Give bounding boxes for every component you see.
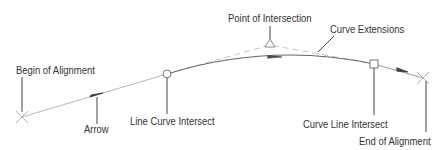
direction-arrow-icon [268, 56, 282, 58]
label-begin-of-alignment: Begin of Alignment [16, 64, 95, 76]
pi-triangle-icon [265, 39, 275, 47]
label-arrow: Arrow [84, 123, 109, 135]
direction-arrow-icon [90, 93, 103, 97]
line-curve-circle-icon [163, 70, 171, 78]
label-point-of-intersection: Point of Intersection [228, 12, 312, 24]
curve-extension-dashed [167, 45, 374, 74]
curve-line-square-icon [370, 60, 378, 68]
end-x-icon [417, 72, 429, 84]
direction-arrow-icon [397, 68, 408, 72]
label-line-curve-intersect: Line Curve Intersect [130, 115, 215, 127]
leader-lines [22, 26, 426, 132]
label-end-of-alignment: End of Alignment [359, 135, 431, 147]
label-curve-line-intersect: Curve Line Intersect [303, 118, 388, 130]
label-curve-extensions: Curve Extensions [330, 23, 404, 35]
begin-x-icon [16, 111, 28, 123]
